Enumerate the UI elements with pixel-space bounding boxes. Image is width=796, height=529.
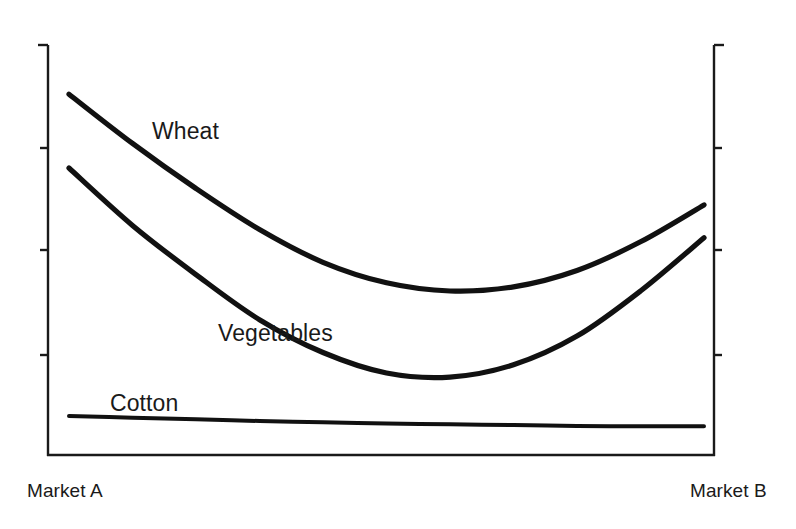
series-line-vegetables [69, 168, 704, 378]
chart-figure: Wheat Vegetables Cotton Market A Market … [0, 0, 796, 529]
series-label-cotton: Cotton [110, 390, 178, 417]
series-label-wheat: Wheat [152, 118, 219, 145]
x-axis-label-market-a: Market A [27, 480, 103, 502]
series-line-cotton [69, 416, 704, 426]
chart-plot-area [0, 0, 796, 529]
series-label-vegetables: Vegetables [218, 320, 333, 347]
x-axis-label-market-b: Market B [690, 480, 767, 502]
